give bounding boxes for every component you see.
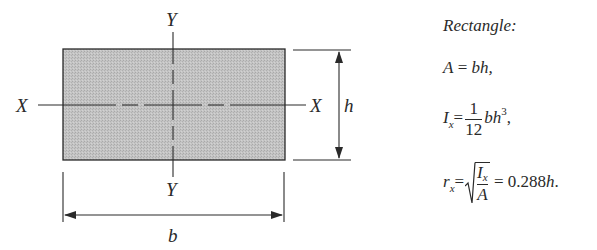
gyration-trail: . [555,172,559,191]
area-eq: = [458,58,468,77]
rectangle-diagram: X X Y Y h b [0,0,360,250]
gyration-value-var: h [546,172,555,191]
radical-sign-icon [465,162,476,204]
fraction-denominator: 12 [465,120,482,140]
inertia-lhs-sub: x [449,118,454,130]
height-label: h [344,95,354,116]
fraction-numerator: 1 [465,99,482,120]
inertia-rhs: bh [484,108,501,127]
sqrt-numerator: Ix [477,163,488,185]
formula-panel: Rectangle: A = bh, Ix=112bh3, rx=IxA = 0… [443,0,597,250]
gyration-eq: = [455,172,465,191]
x-axis-label-left: X [15,95,29,116]
area-rhs: bh, [471,58,492,77]
width-label: b [168,225,178,246]
arrow-up-icon [335,51,343,63]
arrow-right-icon [271,211,283,219]
arrow-down-icon [335,147,343,159]
gyration-eq2: = [494,172,504,191]
square-root: IxA [465,162,490,205]
y-axis-label-top: Y [166,9,179,30]
gyration-lhs: r [443,172,450,191]
inertia-trail: , [507,108,511,127]
gyration-lhs-sub: x [450,182,455,194]
inertia-formula: Ix=112bh3, [443,99,511,140]
gyration-formula: rx=IxA = 0.288h. [443,162,559,205]
inertia-lhs: I [443,108,449,127]
y-axis-label-bottom: Y [166,179,179,200]
sqrt-denominator: A [477,185,488,204]
x-axis-label-right: X [309,95,323,116]
shape-title: Rectangle: [443,16,517,36]
gyration-value: 0.288 [508,172,546,191]
inertia-exponent: 3 [501,105,507,117]
area-formula: A = bh, [443,58,493,78]
inertia-eq: = [454,108,464,127]
inertia-fraction: 112 [465,99,482,140]
arrow-left-icon [64,211,76,219]
area-lhs: A [443,58,453,77]
